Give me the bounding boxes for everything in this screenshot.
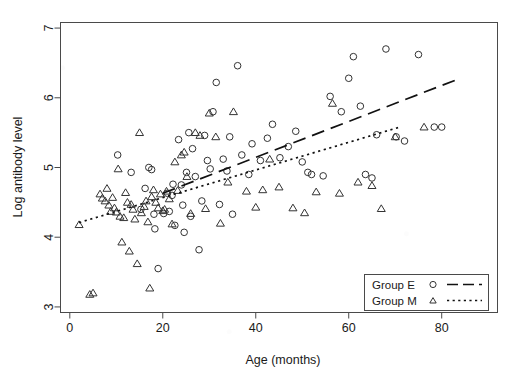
x-axis-label: Age (months) [245,353,320,367]
y-tick-label: 3 [42,303,56,310]
scatter-plot-figure: 34567 020406080 Log antibody level Age (… [0,0,521,377]
y-tick-label: 7 [42,25,56,32]
y-tick-label: 6 [42,94,56,101]
x-tick-label: 20 [156,321,170,335]
x-tick-label: 0 [66,321,73,335]
x-tick-label: 40 [249,321,263,335]
y-axis-label: Log antibody level [11,117,25,218]
y-tick-label: 4 [42,234,56,241]
legend-item-label-group-e: Group E [372,279,415,291]
legend-item-label-group-m: Group M [372,295,417,307]
y-tick-label: 5 [42,164,56,171]
x-tick-label: 80 [435,321,449,335]
x-tick-label: 60 [342,321,356,335]
legend[interactable]: Group E Group M [365,275,489,311]
